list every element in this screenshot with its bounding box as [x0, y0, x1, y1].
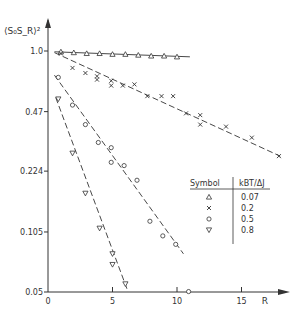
- data-point: [198, 123, 202, 127]
- data-points: [56, 49, 281, 293]
- fit-line-0.2: [54, 53, 280, 157]
- data-point: [95, 78, 99, 82]
- data-point: [97, 226, 102, 231]
- data-point: [70, 103, 74, 107]
- correlation-chart: 1.00.470.2240.1050.05051015R⟨S₀S_R⟩² Sym…: [0, 0, 298, 320]
- data-point: [135, 178, 139, 182]
- data-point: [224, 125, 228, 129]
- data-point: [160, 94, 164, 98]
- legend-value: 0.8: [241, 226, 254, 235]
- x-tick-label: 10: [172, 297, 182, 306]
- data-point: [187, 289, 191, 293]
- data-point: [71, 66, 75, 70]
- data-point: [277, 154, 281, 158]
- legend-value: 0.5: [241, 215, 254, 224]
- data-point: [171, 94, 175, 98]
- data-point: [109, 146, 113, 150]
- y-axis-label: ⟨S₀S_R⟩²: [4, 26, 41, 36]
- legend-marker-triangle-down-icon: [206, 228, 211, 233]
- data-point: [83, 122, 87, 126]
- legend-marker-circle-icon: [207, 217, 211, 221]
- data-point: [70, 151, 75, 156]
- data-point: [132, 82, 136, 86]
- y-axis-arrow-icon: [45, 18, 51, 28]
- data-point: [109, 160, 113, 164]
- data-point: [110, 262, 115, 267]
- data-point: [96, 140, 100, 144]
- y-tick-label: 1.0: [30, 47, 43, 56]
- x-axis-arrow-icon: [278, 289, 290, 295]
- data-point: [122, 163, 126, 167]
- x-axis-label: R: [262, 296, 268, 306]
- x-tick-label: 0: [45, 297, 50, 306]
- data-point: [123, 282, 128, 287]
- legend-marker-triangle-up-icon: [206, 194, 211, 199]
- x-tick-label: 15: [236, 297, 246, 306]
- fit-line-0.5: [54, 75, 183, 254]
- data-point: [148, 219, 152, 223]
- data-point: [109, 84, 113, 88]
- data-point: [83, 191, 88, 196]
- data-point: [109, 79, 113, 83]
- data-point: [198, 113, 202, 117]
- data-point: [250, 136, 254, 140]
- legend-value: 0.2: [241, 204, 254, 213]
- data-point: [174, 242, 178, 246]
- axes: 1.00.470.2240.1050.05051015R⟨S₀S_R⟩²: [4, 18, 290, 306]
- y-tick-label: 0.05: [25, 288, 43, 297]
- legend: SymbolkBT/ΔJ0.070.20.50.8: [190, 177, 270, 244]
- y-tick-label: 0.105: [20, 228, 43, 237]
- data-point: [161, 234, 165, 238]
- x-tick-label: 5: [110, 297, 115, 306]
- y-tick-label: 0.47: [25, 108, 43, 117]
- data-point: [83, 71, 87, 75]
- legend-header-symbol: Symbol: [190, 179, 220, 188]
- data-point: [56, 75, 60, 79]
- legend-marker-x-icon: [207, 206, 211, 210]
- fit-lines: [54, 52, 280, 292]
- y-tick-label: 0.224: [20, 167, 43, 176]
- legend-header-value: kBT/ΔJ: [239, 179, 265, 188]
- legend-value: 0.07: [241, 193, 259, 202]
